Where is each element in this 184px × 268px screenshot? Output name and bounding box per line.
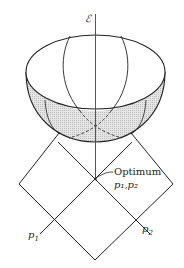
error-axis-label: ℰ [85,13,92,24]
error-surface-diagram: ℰ Optimum p₁,p₂ p1 p2 [0,0,184,268]
optimum-params-label: p₁,p₂ [114,179,138,190]
p2-label: p2 [142,223,153,237]
parameter-plane [19,128,173,260]
optimum-label: Optimum [114,166,162,177]
p1-label: p1 [28,229,39,243]
